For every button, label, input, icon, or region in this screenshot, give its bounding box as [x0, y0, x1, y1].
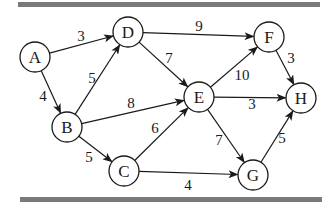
- edge-weight-b-c: 5: [85, 149, 93, 165]
- node-label: F: [264, 28, 273, 47]
- edge-weight-a-d: 3: [77, 28, 85, 44]
- node-label: H: [295, 89, 307, 108]
- bottom-rule: [20, 197, 322, 202]
- node-d: D: [113, 17, 143, 47]
- edge-g-h: [261, 111, 293, 162]
- edge-weight-a-b: 4: [39, 88, 47, 104]
- node-h: H: [286, 83, 316, 113]
- node-b: B: [52, 112, 82, 142]
- node-label: E: [194, 88, 204, 107]
- top-rule: [18, 2, 320, 7]
- edge-weight-e-f: 10: [235, 67, 250, 83]
- edge-weight-g-h: 5: [278, 130, 286, 146]
- edge-weight-b-e: 8: [127, 95, 135, 111]
- edge-weight-d-e: 7: [165, 50, 173, 66]
- node-a: A: [20, 42, 50, 72]
- graph-diagram: 345859764103735 ABCDEFGH: [0, 0, 334, 210]
- edge-e-g: [208, 109, 245, 162]
- node-label: D: [122, 23, 134, 42]
- edge-weight-b-d: 5: [88, 70, 96, 86]
- node-label: A: [29, 48, 42, 67]
- edge-weight-c-g: 4: [184, 177, 192, 193]
- node-g: G: [238, 160, 268, 190]
- node-c: C: [109, 156, 139, 186]
- edge-b-d: [75, 45, 120, 114]
- edge-weight-c-e: 6: [151, 120, 159, 136]
- node-label: G: [247, 166, 259, 185]
- edge-d-e: [139, 42, 188, 86]
- edge-weight-d-f: 9: [195, 18, 203, 34]
- edge-weight-f-h: 3: [287, 50, 295, 66]
- node-f: F: [254, 22, 284, 52]
- edge-b-c: [79, 136, 112, 161]
- edge-weight-e-g: 7: [215, 132, 223, 148]
- edge-c-g: [139, 171, 238, 174]
- node-e: E: [184, 82, 214, 112]
- edge-weight-e-h: 3: [248, 96, 256, 112]
- node-label: B: [61, 118, 72, 137]
- edge-c-e: [135, 108, 188, 161]
- node-label: C: [118, 162, 129, 181]
